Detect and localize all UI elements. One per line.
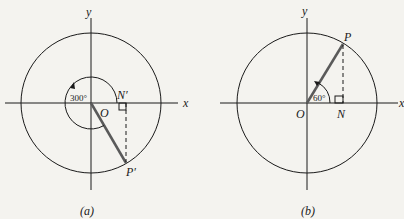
angle-label-a: 300° (70, 93, 88, 103)
diagram-canvas: 300° O N′ P′ x y (a) 60° O N P x y (b) (0, 0, 404, 219)
point-label-a: P′ (125, 165, 136, 179)
origin-label-b: O (296, 107, 305, 121)
caption-a: (a) (80, 204, 94, 218)
point-label-b: P (343, 30, 352, 44)
x-axis-label-b: x (398, 96, 404, 110)
figure-a: 300° O N′ P′ x y (a) (5, 5, 189, 218)
angle-label-b: 60° (313, 93, 326, 103)
right-angle-marker-b (335, 96, 343, 103)
figure-b: 60° O N P x y (b) (220, 4, 404, 218)
right-angle-marker-a (119, 103, 126, 110)
foot-label-a: N′ (116, 88, 128, 102)
y-axis-label-a: y (85, 5, 92, 19)
origin-label-a: O (100, 106, 109, 120)
foot-label-b: N (336, 107, 346, 121)
caption-b: (b) (301, 204, 315, 218)
y-axis-label-b: y (301, 4, 308, 18)
x-axis-label-a: x (182, 96, 189, 110)
